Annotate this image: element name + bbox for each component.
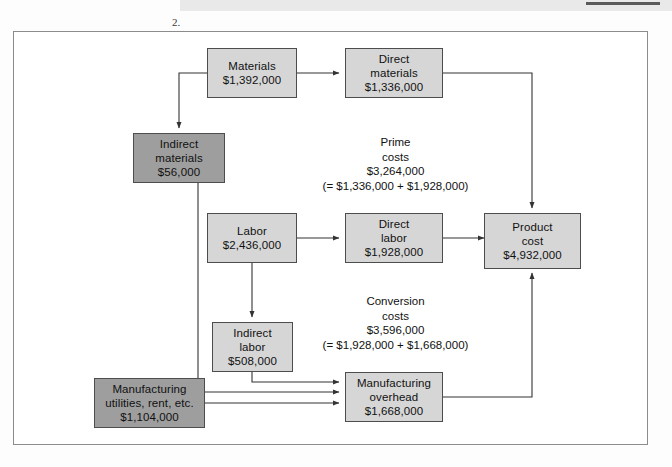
- box-manufacturing-utilities-line-0: Manufacturing: [112, 382, 186, 396]
- box-materials[interactable]: Materials $1,392,000: [207, 48, 297, 98]
- box-direct-labor-line-1: labor: [381, 231, 407, 245]
- annotation-prime-costs-line-2: $3,264,000: [273, 164, 518, 179]
- box-labor-line-0: Labor: [237, 224, 267, 238]
- connector-materials-to-indirect-materials: [179, 73, 207, 128]
- page-background: 2.: [0, 0, 672, 467]
- box-product-cost[interactable]: Product cost $4,932,000: [484, 213, 581, 269]
- box-indirect-materials[interactable]: Indirect materials $56,000: [133, 133, 225, 183]
- annotation-prime-costs-line-0: Prime: [273, 135, 518, 150]
- box-direct-materials[interactable]: Direct materials $1,336,000: [345, 48, 443, 98]
- box-direct-labor-line-2: $1,928,000: [365, 245, 424, 259]
- box-manufacturing-utilities-line-2: $1,104,000: [120, 410, 179, 424]
- annotation-prime-costs: Prime costs $3,264,000 (= $1,336,000 + $…: [273, 135, 518, 193]
- annotation-conversion-costs: Conversion costs $3,596,000 (= $1,928,00…: [273, 294, 518, 352]
- box-labor-line-1: $2,436,000: [223, 238, 282, 252]
- box-indirect-materials-line-0: Indirect: [160, 137, 199, 151]
- box-manufacturing-overhead[interactable]: Manufacturing overhead $1,668,000: [345, 372, 443, 422]
- box-manufacturing-overhead-line-1: overhead: [370, 390, 419, 404]
- box-direct-materials-line-2: $1,336,000: [365, 80, 424, 94]
- box-manufacturing-overhead-line-2: $1,668,000: [365, 404, 424, 418]
- box-indirect-materials-line-1: materials: [155, 151, 203, 165]
- box-product-cost-line-1: cost: [522, 234, 544, 248]
- annotation-conversion-costs-line-0: Conversion: [273, 294, 518, 309]
- box-direct-materials-line-1: materials: [370, 66, 418, 80]
- box-direct-materials-line-0: Direct: [379, 52, 410, 66]
- box-manufacturing-utilities[interactable]: Manufacturing utilities, rent, etc. $1,1…: [94, 378, 205, 428]
- box-manufacturing-overhead-line-0: Manufacturing: [357, 376, 431, 390]
- box-labor[interactable]: Labor $2,436,000: [207, 213, 297, 263]
- annotation-conversion-costs-line-1: costs: [273, 309, 518, 324]
- box-indirect-materials-line-2: $56,000: [158, 165, 200, 179]
- annotation-prime-costs-line-1: costs: [273, 150, 518, 165]
- box-indirect-labor-line-1: labor: [239, 340, 265, 354]
- connector-indirect-labor-to-overhead: [252, 372, 339, 382]
- box-indirect-labor-line-2: $508,000: [228, 354, 277, 368]
- annotation-conversion-costs-line-3: (= $1,928,000 + $1,668,000): [273, 338, 518, 353]
- box-product-cost-line-2: $4,932,000: [503, 248, 562, 262]
- box-manufacturing-utilities-line-1: utilities, rent, etc.: [105, 396, 193, 410]
- box-product-cost-line-0: Product: [512, 220, 552, 234]
- box-indirect-labor-line-0: Indirect: [233, 326, 272, 340]
- box-direct-labor-line-0: Direct: [379, 217, 410, 231]
- annotation-prime-costs-line-3: (= $1,336,000 + $1,928,000): [273, 179, 518, 194]
- box-materials-line-0: Materials: [228, 59, 276, 73]
- box-materials-line-1: $1,392,000: [223, 73, 282, 87]
- box-direct-labor[interactable]: Direct labor $1,928,000: [345, 213, 443, 263]
- annotation-conversion-costs-line-2: $3,596,000: [273, 323, 518, 338]
